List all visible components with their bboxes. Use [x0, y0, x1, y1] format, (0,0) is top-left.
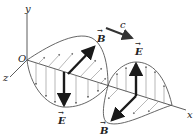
b-vector-2 [112, 96, 136, 120]
b-label-bottom-arrow: → [100, 118, 106, 127]
z-axis-label: z [2, 72, 9, 83]
e-field-lines-1 [36, 63, 98, 104]
e-field-curve-2 [108, 62, 172, 105]
origin-label: O [18, 53, 26, 64]
b-field-lines-2 [108, 89, 158, 114]
propagation-arrow [106, 28, 132, 38]
y-axis-label: y [24, 3, 31, 14]
x-axis-label: x [187, 109, 193, 120]
b-label-top-arrow: → [97, 26, 103, 35]
e-field-curve-1 [27, 60, 108, 107]
e-label-top-arrow: → [135, 39, 141, 48]
b-field-curve-1 [27, 36, 108, 86]
e-label-bottom-arrow: → [58, 108, 64, 117]
em-wave-diagram: y O z x c B → E → E → B → [0, 0, 195, 136]
speed-label: c [120, 19, 126, 30]
b-vector-1 [68, 47, 94, 74]
